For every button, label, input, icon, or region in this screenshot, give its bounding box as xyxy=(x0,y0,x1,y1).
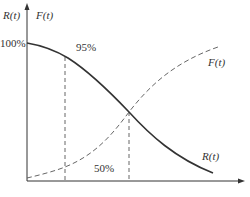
label-95: 95% xyxy=(76,42,96,53)
reliability-diagram: R(t) F(t) 100% 95% F(t) 50% R(t) xyxy=(0,0,250,197)
y-axis-arrow-icon xyxy=(25,3,30,10)
curve-F xyxy=(27,47,218,178)
label-50: 50% xyxy=(94,163,114,174)
curve-R xyxy=(27,43,213,173)
label-curve-R: R(t) xyxy=(202,151,219,162)
x-axis-arrow-icon xyxy=(238,179,245,184)
y-axis-label-R: R(t) xyxy=(3,10,20,21)
y-axis-label-F: F(t) xyxy=(36,10,53,21)
label-curve-F: F(t) xyxy=(208,57,225,68)
y-max-label: 100% xyxy=(0,38,26,49)
diagram-canvas xyxy=(0,0,250,197)
